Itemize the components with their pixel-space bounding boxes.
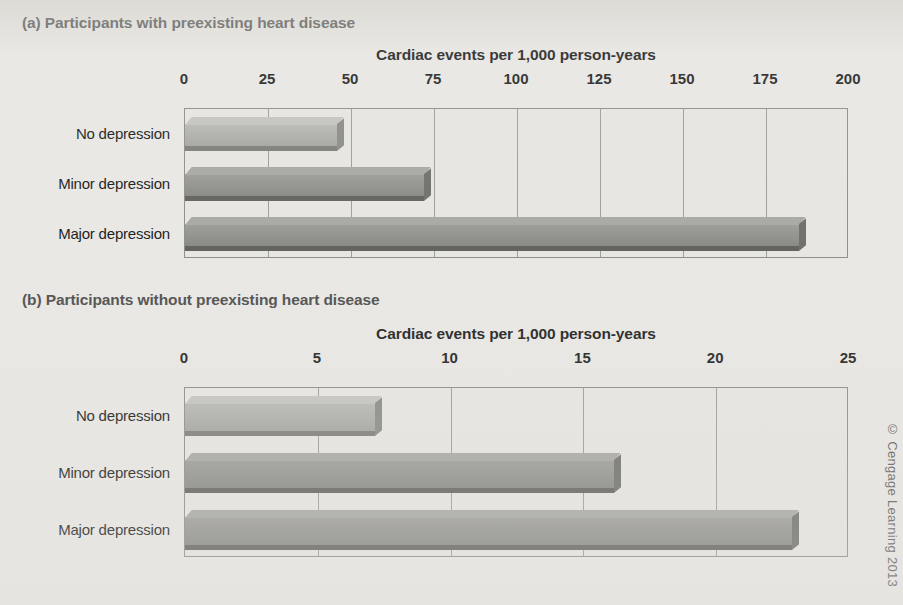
bar — [185, 453, 621, 493]
x-tick-label: 0 — [180, 349, 188, 366]
bar — [185, 510, 799, 550]
bar-side-face — [337, 118, 344, 151]
bar-top-face — [185, 396, 381, 404]
category-label: Minor depression — [58, 175, 170, 192]
panel-a-x-axis-ticks: 0255075100125150175200 — [184, 70, 848, 92]
x-tick-label: 50 — [342, 70, 359, 87]
x-tick-label: 200 — [835, 70, 860, 87]
category-label: Minor depression — [58, 464, 170, 481]
figure-canvas: (a) Participants with preexisting heart … — [0, 0, 903, 605]
bar-top-face — [185, 117, 344, 125]
category-label: Major depression — [58, 225, 170, 242]
bar — [185, 167, 431, 201]
bar — [185, 217, 806, 251]
bar — [185, 117, 344, 151]
bar-side-face — [614, 454, 621, 493]
panel-b-plot-area — [184, 387, 848, 557]
bar-side-face — [799, 218, 806, 251]
bar-bottom-shadow — [185, 431, 375, 436]
bar-bottom-shadow — [185, 246, 799, 251]
bar-side-face — [424, 168, 431, 201]
x-tick-label: 10 — [441, 349, 458, 366]
bar-top-face — [185, 167, 430, 175]
category-label: No depression — [76, 407, 170, 424]
category-label: Major depression — [58, 520, 170, 537]
category-label: No depression — [76, 125, 170, 142]
bar-side-face — [792, 511, 799, 550]
x-tick-label: 150 — [669, 70, 694, 87]
x-tick-label: 0 — [180, 70, 188, 87]
x-tick-label: 100 — [503, 70, 528, 87]
panel-a-plot-area — [184, 108, 848, 258]
bar-bottom-shadow — [185, 545, 792, 550]
chart-panel-a: (a) Participants with preexisting heart … — [0, 14, 903, 289]
x-tick-label: 175 — [752, 70, 777, 87]
panel-b-category-labels: No depressionMinor depressionMajor depre… — [0, 387, 178, 557]
bar-bottom-shadow — [185, 488, 614, 493]
x-tick-label: 125 — [586, 70, 611, 87]
x-tick-label: 75 — [425, 70, 442, 87]
bar-top-face — [185, 510, 798, 518]
chart-panel-b: (b) Participants without preexisting hea… — [0, 291, 903, 591]
panel-a-title: (a) Participants with preexisting heart … — [22, 14, 355, 32]
bar-top-face — [185, 453, 620, 461]
panel-b-title: (b) Participants without preexisting hea… — [22, 291, 380, 309]
bar-side-face — [375, 397, 382, 436]
bar-top-face — [185, 217, 806, 225]
bar-bottom-shadow — [185, 146, 337, 151]
panel-b-x-axis-ticks: 0510152025 — [184, 349, 848, 371]
panel-a-category-labels: No depressionMinor depressionMajor depre… — [0, 108, 178, 258]
panel-b-axis-title: Cardiac events per 1,000 person-years — [184, 325, 848, 343]
x-tick-label: 25 — [259, 70, 276, 87]
bar — [185, 396, 382, 436]
x-tick-label: 20 — [707, 349, 724, 366]
bar-bottom-shadow — [185, 196, 424, 201]
x-tick-label: 5 — [313, 349, 321, 366]
x-tick-label: 25 — [840, 349, 857, 366]
panel-a-axis-title: Cardiac events per 1,000 person-years — [184, 46, 848, 64]
copyright-notice: © Cengage Learning 2013 — [885, 422, 900, 587]
x-tick-label: 15 — [574, 349, 591, 366]
